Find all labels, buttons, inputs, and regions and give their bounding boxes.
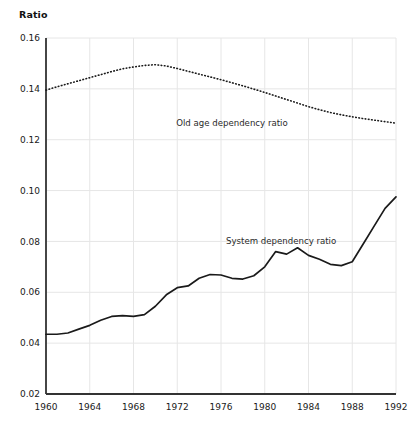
x-tick-label: 1988 [341,402,364,412]
y-tick-label: 0.02 [20,389,40,399]
y-tick-label: 0.10 [20,186,40,196]
y-tick-label: 0.12 [20,135,40,145]
x-tick-labels: 196019641968197219761980198419881992 [35,402,408,412]
x-tick-label: 1992 [385,402,408,412]
x-tick-label: 1968 [122,402,145,412]
series-annotations: Old age dependency ratioSystem dependenc… [176,118,336,246]
x-tick-label: 1976 [210,402,233,412]
x-tick-label: 1960 [35,402,58,412]
x-tick-label: 1984 [297,402,320,412]
x-tick-label: 1972 [166,402,189,412]
y-tick-label: 0.16 [20,33,40,43]
y-tick-labels: 0.020.040.060.080.100.120.140.16 [20,33,40,399]
series-label: System dependency ratio [226,236,336,246]
line-chart: 0.020.040.060.080.100.120.140.16 1960196… [0,0,413,431]
x-tick-label: 1964 [78,402,101,412]
y-tick-label: 0.14 [20,84,40,94]
series-label: Old age dependency ratio [176,118,288,128]
y-tick-label: 0.08 [20,237,40,247]
y-tick-label: 0.06 [20,287,40,297]
y-tick-label: 0.04 [20,338,40,348]
x-tick-label: 1980 [253,402,276,412]
chart-container: Ratio 0.020.040.060.080.100.120.140.16 1… [0,0,413,431]
gridlines [46,38,396,394]
